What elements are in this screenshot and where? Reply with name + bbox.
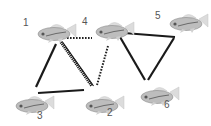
edge-1-2-inner (63, 42, 94, 86)
fish-icon-6 (141, 87, 179, 106)
edge-1-2 (61, 42, 92, 86)
fish-icon-5 (170, 14, 208, 33)
edge-4-6 (120, 37, 145, 80)
edge-4-5 (124, 33, 175, 37)
fish-icon-4 (96, 22, 134, 41)
node-label-6: 6 (164, 100, 170, 110)
edge-1-3 (36, 44, 56, 87)
fish-icon-1 (38, 24, 76, 43)
fish-icon-3 (16, 96, 54, 115)
node-label-4: 4 (82, 17, 88, 27)
edge-3-2 (38, 90, 84, 93)
edge-5-6 (148, 38, 174, 80)
fish-network-diagram (0, 0, 211, 126)
edge-4-2 (97, 46, 108, 85)
node-label-5: 5 (155, 11, 161, 21)
node-label-1: 1 (23, 18, 29, 28)
edges-layer (36, 33, 175, 93)
node-label-2: 2 (107, 108, 113, 118)
fish-icon-2 (86, 96, 124, 115)
node-label-3: 3 (37, 111, 43, 121)
nodes-layer (16, 14, 208, 115)
